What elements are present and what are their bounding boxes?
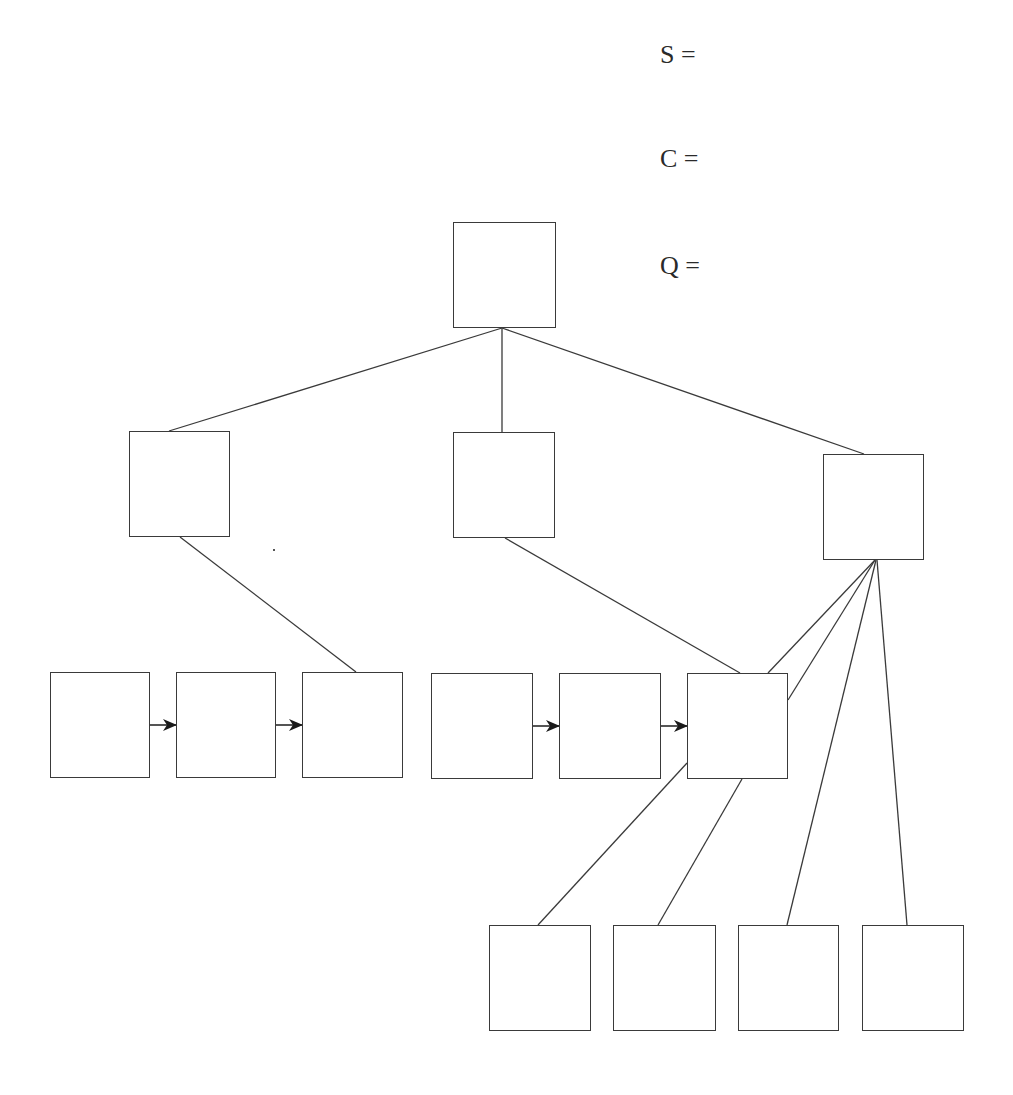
edge-mid-left-to-row1-c: [180, 537, 356, 672]
edge-mid-right-to-row2-c-top: [768, 560, 875, 673]
label-s: S =: [660, 42, 696, 68]
node-row2-a: [431, 673, 533, 779]
node-row2-c: [687, 673, 788, 779]
edge-root-to-mid-right: [502, 328, 864, 454]
node-leaf-3: [738, 925, 839, 1031]
node-mid-center: [453, 432, 555, 538]
node-root: [453, 222, 556, 328]
node-leaf-1: [489, 925, 591, 1031]
node-leaf-4: [862, 925, 964, 1031]
edge-mid-center-to-row2-c: [505, 538, 740, 673]
node-mid-right: [823, 454, 924, 560]
tree-edges: [169, 328, 907, 925]
stray-dot: [273, 549, 275, 551]
node-mid-left: [129, 431, 230, 537]
edge-mid-right-to-leaf-3: [787, 560, 876, 925]
label-c: C =: [660, 146, 699, 172]
edge-mid-right-to-leaf-4: [877, 560, 907, 925]
node-row1-c: [302, 672, 403, 778]
node-leaf-2: [613, 925, 716, 1031]
edge-row2-c-to-leaf-1: [538, 763, 687, 925]
node-row1-b: [176, 672, 276, 778]
edge-root-to-mid-left: [169, 328, 502, 431]
edge-row2-c-to-leaf-2: [658, 779, 742, 925]
label-q: Q =: [660, 253, 700, 279]
edge-mid-right-to-row2-c-right: [788, 560, 875, 700]
node-row2-b: [559, 673, 661, 779]
node-row1-a: [50, 672, 150, 778]
